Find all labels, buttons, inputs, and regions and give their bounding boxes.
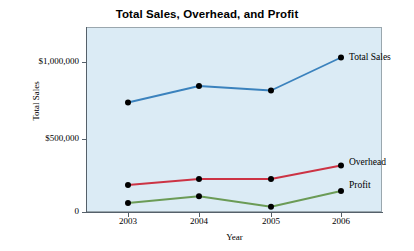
series-label-overhead: Overhead bbox=[349, 157, 386, 167]
chart-container: Total Sales, Overhead, and Profit $1,000… bbox=[0, 0, 414, 251]
y-axis-line bbox=[86, 27, 87, 213]
x-tick-label-2003: 2003 bbox=[106, 216, 150, 226]
x-axis-title: Year bbox=[86, 232, 383, 242]
x-tick-label-2004: 2004 bbox=[177, 216, 221, 226]
series-label-total-sales: Total Sales bbox=[349, 52, 391, 62]
y-tick-label-500000: $500,000 bbox=[45, 133, 79, 143]
y-tick-label-1000000: $1,000,000 bbox=[39, 56, 80, 66]
chart-title: Total Sales, Overhead, and Profit bbox=[0, 8, 414, 20]
x-axis-line bbox=[86, 212, 383, 213]
series-label-profit: Profit bbox=[349, 180, 371, 190]
plot-area-background bbox=[86, 27, 382, 212]
y-tick-mark-1000000 bbox=[82, 62, 87, 63]
y-axis-title: Total Sales bbox=[31, 61, 41, 141]
y-tick-mark-500000 bbox=[82, 139, 87, 140]
y-tick-mark-0 bbox=[82, 212, 87, 213]
x-tick-label-2005: 2005 bbox=[249, 216, 293, 226]
y-tick-label-0: 0 bbox=[75, 206, 80, 216]
x-tick-label-2006: 2006 bbox=[319, 216, 363, 226]
